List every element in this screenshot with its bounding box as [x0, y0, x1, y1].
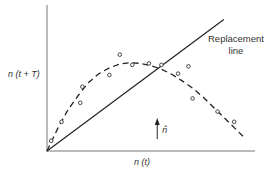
arrow-up-icon — [155, 118, 160, 125]
x-axis-label: n (t) — [134, 157, 150, 167]
data-point — [160, 63, 164, 67]
equilibrium-arrow — [155, 118, 160, 139]
data-point — [78, 101, 82, 105]
replacement-label-line2: line — [229, 45, 244, 56]
diagram: n̂ Replacement line n (t + T) n (t) — [0, 0, 273, 174]
y-axis-label: n (t + T) — [8, 69, 40, 79]
data-point — [232, 120, 236, 124]
replacement-label-line1: Replacement — [208, 33, 264, 44]
data-point — [187, 65, 191, 69]
equilibrium-label: n̂ — [162, 125, 167, 135]
data-point — [130, 63, 134, 67]
data-point — [216, 110, 220, 114]
data-point — [60, 120, 64, 124]
data-point — [118, 53, 122, 57]
replacement-line — [47, 20, 224, 151]
data-point — [49, 139, 53, 143]
data-point — [176, 72, 180, 76]
data-point — [191, 97, 195, 101]
fitted-dashed-curve — [47, 63, 245, 151]
data-point — [147, 62, 151, 66]
data-point — [81, 85, 85, 89]
data-point — [108, 73, 112, 77]
